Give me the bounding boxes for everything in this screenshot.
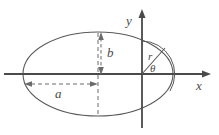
radius-label: r [148,50,153,62]
semi-major-arrow-left-icon [24,81,32,87]
x-axis-arrowhead-icon [202,71,211,78]
semi-major-label: a [55,86,62,101]
semi-minor-arrow-up-icon [98,32,104,40]
semi-minor-label: b [107,45,114,60]
x-axis-label: x [195,78,202,93]
diagram-canvas: x y b a r θ [0,0,219,135]
y-axis-arrowhead-icon [139,9,146,18]
angle-label: θ [150,62,156,74]
y-axis-label: y [124,13,132,28]
ellipse-polar-diagram: x y b a r θ [0,0,219,135]
semi-major-arrow-right-icon [90,81,98,87]
